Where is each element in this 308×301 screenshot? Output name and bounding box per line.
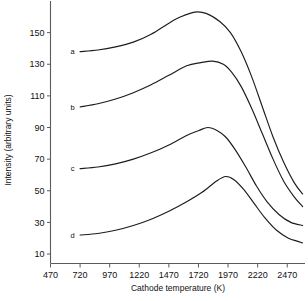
y-tick-label-70: 70 — [34, 154, 44, 164]
y-axis-title: Intensity (arbitrary units) — [3, 94, 13, 185]
x-tick-label-2470: 2470 — [277, 270, 297, 280]
data-curves-group — [80, 12, 303, 243]
x-tick-label-970: 970 — [102, 270, 117, 280]
chart-figure: 1030507090110130150 47072097012201470172… — [0, 0, 308, 301]
x-axis-group: 470720970122014701720197022202470 — [43, 264, 305, 281]
curve-label-c: c — [71, 164, 75, 173]
curve-c — [80, 128, 303, 226]
y-tick-label-90: 90 — [34, 123, 44, 133]
x-tick-label-470: 470 — [43, 270, 58, 280]
x-tick-label-720: 720 — [73, 270, 88, 280]
x-tick-label-1470: 1470 — [159, 270, 179, 280]
x-axis-title: Cathode temperature (K) — [131, 283, 225, 293]
line-chart-canvas: 1030507090110130150 47072097012201470172… — [0, 0, 308, 301]
curve-d — [80, 176, 303, 242]
curve-label-a: a — [70, 47, 75, 56]
y-axis-group: 1030507090110130150 — [29, 1, 50, 263]
y-tick-label-130: 130 — [29, 59, 44, 69]
x-tick-label-2220: 2220 — [248, 270, 268, 280]
x-axis-ticks — [51, 264, 288, 268]
curve-a — [80, 12, 303, 194]
curve-label-b: b — [70, 103, 74, 112]
x-axis-tick-labels: 470720970122014701720197022202470 — [43, 270, 297, 280]
y-tick-label-30: 30 — [34, 218, 44, 228]
y-tick-label-110: 110 — [30, 91, 44, 101]
y-tick-label-150: 150 — [29, 28, 44, 38]
curve-labels-group: abcd — [70, 47, 75, 239]
y-axis-tick-labels: 1030507090110130150 — [29, 28, 44, 259]
y-tick-label-50: 50 — [34, 186, 44, 196]
curve-label-d: d — [70, 231, 74, 240]
x-tick-label-1720: 1720 — [188, 270, 208, 280]
x-tick-label-1220: 1220 — [129, 270, 149, 280]
x-tick-label-1970: 1970 — [218, 270, 238, 280]
y-tick-label-10: 10 — [34, 249, 44, 259]
